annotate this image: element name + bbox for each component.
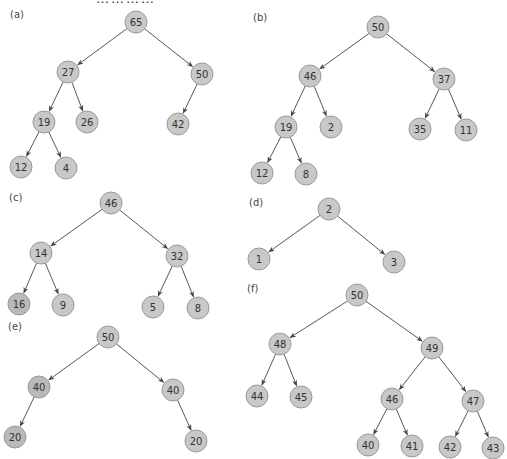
edge-arrow [183, 84, 197, 113]
node-value: 4 [63, 163, 69, 174]
tree-d-edges [269, 215, 385, 254]
node-value: 5 [150, 302, 156, 313]
node-value: 46 [304, 71, 317, 82]
tree-e: 5040402020 [4, 326, 207, 452]
nodes-layer: 6527501926421245046371923511128461432169… [4, 11, 504, 459]
tree-f: 5048494445464740414243 [246, 284, 504, 459]
tree-node: 19 [33, 111, 55, 133]
node-value: 50 [102, 332, 115, 343]
edge-arrow [49, 82, 63, 111]
tree-a: 652750192642124 [10, 11, 213, 179]
node-value: 37 [438, 74, 451, 85]
edge-arrow [158, 266, 172, 296]
tree-node: 47 [462, 390, 484, 412]
node-value: 42 [172, 119, 185, 130]
binary-trees-figure: ………… (a)(b)(c)(d)(e)(f) 6527501926421245… [0, 0, 507, 459]
tree-node: 11 [455, 119, 477, 141]
edge-arrow [477, 411, 488, 437]
edge-arrow [72, 82, 83, 111]
tree-node: 2 [320, 116, 342, 138]
tree-node: 12 [251, 162, 273, 184]
node-value: 45 [295, 392, 308, 403]
node-value: 40 [362, 440, 375, 451]
edge-arrow [320, 33, 369, 69]
edge-arrow [117, 344, 164, 382]
edge-arrow [439, 357, 466, 392]
edge-arrow [290, 301, 348, 338]
tree-c: 46143216958 [8, 192, 209, 319]
tree-node: 37 [433, 68, 455, 90]
edge-arrow [387, 34, 435, 72]
edge-arrow [396, 409, 407, 435]
tree-b-edges [268, 33, 462, 163]
edge-arrow [455, 411, 468, 437]
edge-arrow [399, 357, 425, 390]
node-value: 14 [35, 248, 48, 259]
tree-node: 50 [346, 284, 368, 306]
tree-node: 49 [421, 337, 443, 359]
edge-arrow [448, 89, 461, 119]
edge-arrow [284, 354, 297, 386]
edge-arrow [290, 137, 301, 163]
edge-arrow [269, 215, 320, 252]
tree-node: 50 [191, 63, 213, 85]
edge-arrow [24, 263, 37, 293]
node-value: 3 [391, 257, 397, 268]
node-value: 8 [195, 303, 201, 314]
tree-node: 20 [185, 430, 207, 452]
node-value: 46 [105, 198, 118, 209]
tree-node: 46 [100, 192, 122, 214]
edge-arrow [51, 209, 102, 246]
edges-layer [20, 29, 488, 438]
edge-arrow [45, 263, 58, 294]
edge-arrow [262, 354, 276, 385]
node-value: 2 [328, 122, 334, 133]
node-value: 35 [414, 124, 427, 135]
node-value: 11 [460, 125, 473, 136]
node-value: 47 [467, 396, 480, 407]
node-value: 40 [167, 385, 180, 396]
tree-f-edges [262, 301, 488, 437]
edge-arrow [27, 132, 40, 157]
node-value: 65 [130, 17, 143, 28]
tree-node: 1 [248, 248, 270, 270]
edge-arrow [181, 266, 193, 297]
edge-arrow [145, 29, 193, 67]
edge-arrow [120, 210, 168, 249]
node-value: 44 [251, 391, 264, 402]
node-value: 49 [426, 343, 439, 354]
tree-node: 20 [4, 426, 26, 448]
node-value: 41 [406, 441, 419, 452]
edge-arrow [178, 400, 192, 430]
node-value: 50 [351, 290, 364, 301]
node-value: 20 [9, 432, 22, 443]
node-value: 40 [33, 382, 46, 393]
tree-node: 2 [318, 198, 340, 220]
tree-node: 14 [30, 242, 52, 264]
tree-node: 45 [290, 386, 312, 408]
edge-arrow [338, 216, 385, 254]
node-value: 12 [15, 162, 28, 173]
node-value: 27 [62, 67, 75, 78]
node-value: 50 [372, 22, 385, 33]
edge-arrow [268, 137, 281, 163]
tree-node: 44 [246, 385, 268, 407]
node-value: 8 [303, 169, 309, 180]
tree-node: 16 [8, 293, 30, 315]
node-value: 12 [256, 168, 269, 179]
tree-node: 43 [482, 437, 504, 459]
tree-d: 213 [248, 198, 405, 273]
edge-arrow [49, 132, 61, 157]
tree-node: 46 [299, 65, 321, 87]
tree-node: 8 [295, 163, 317, 185]
tree-node: 40 [357, 434, 379, 456]
tree-node: 50 [367, 16, 389, 38]
tree-node: 9 [52, 294, 74, 316]
node-value: 50 [196, 69, 209, 80]
edge-arrow [374, 409, 387, 435]
tree-node: 32 [166, 245, 188, 267]
edge-arrow [78, 29, 127, 65]
tree-node: 8 [187, 297, 209, 319]
tree-node: 26 [76, 111, 98, 133]
edge-arrow [49, 344, 99, 381]
